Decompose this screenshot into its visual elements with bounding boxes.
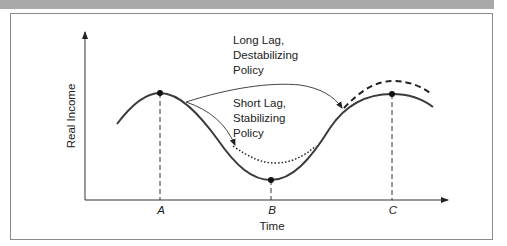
point-b-marker [268, 177, 274, 183]
point-c-marker [389, 91, 395, 97]
x-tick-a: A [157, 204, 165, 216]
short-lag-label-line2: Stabilizing [233, 111, 285, 125]
x-tick-b: B [268, 204, 276, 216]
x-tick-c: C [389, 204, 397, 216]
long-lag-label-line3: Policy [233, 63, 264, 77]
short-lag-label-line3: Policy [233, 126, 264, 140]
x-axis-title: Time [259, 220, 284, 232]
point-a-marker [157, 90, 163, 96]
long-lag-label-line1: Long Lag, [233, 33, 284, 47]
short-lag-label-line1: Short Lag, [233, 96, 286, 110]
y-axis-title: Real Income [65, 84, 77, 149]
long-lag-label-line2: Destabilizing [233, 48, 298, 62]
stabilized-path-curve [233, 146, 316, 163]
short-lag-arrow [186, 102, 235, 145]
